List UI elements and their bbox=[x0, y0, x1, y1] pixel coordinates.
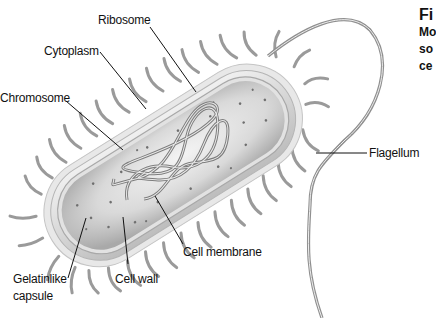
flagellum-label: Flagellum bbox=[369, 146, 419, 160]
figure-caption-line-3: ce bbox=[419, 58, 432, 74]
cytoplasm-label: Cytoplasm bbox=[44, 44, 99, 58]
flagellum bbox=[268, 20, 382, 318]
capsule-label-line2: capsule bbox=[13, 289, 53, 303]
figure-caption-line-1: Mo bbox=[419, 24, 436, 40]
capsule-label-line1: Gelatinlike bbox=[13, 272, 67, 286]
ribosome-label: Ribosome bbox=[98, 13, 150, 27]
figure-caption-title: Fi bbox=[419, 6, 433, 24]
cytoplasm-leader bbox=[100, 52, 146, 109]
cell-membrane-label: Cell membrane bbox=[183, 245, 262, 259]
cell-wall-label: Cell wall bbox=[115, 272, 158, 286]
figure-caption-line-2: so bbox=[419, 41, 433, 57]
ribosome-leader bbox=[150, 27, 196, 92]
chromosome-label: Chromosome bbox=[0, 91, 70, 105]
